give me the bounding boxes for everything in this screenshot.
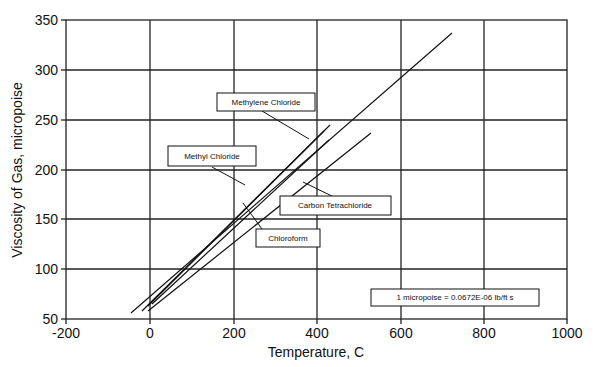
svg-text:200: 200 [35, 162, 59, 178]
svg-text:350: 350 [35, 12, 59, 28]
svg-text:600: 600 [389, 325, 413, 341]
svg-text:300: 300 [35, 62, 59, 78]
grid [61, 20, 567, 324]
viscosity-chart: 350 300 250 200 150 100 50 -200 0 200 40… [0, 0, 593, 367]
svg-text:-200: -200 [52, 325, 80, 341]
svg-text:800: 800 [472, 325, 496, 341]
svg-text:200: 200 [222, 325, 246, 341]
svg-text:1 micropoise = 0.0672E-06 lb/f: 1 micropoise = 0.0672E-06 lb/ft s [396, 293, 513, 302]
y-tick-labels: 350 300 250 200 150 100 50 [35, 12, 59, 327]
conversion-note: 1 micropoise = 0.0672E-06 lb/ft s [371, 289, 539, 306]
svg-text:100: 100 [35, 261, 59, 277]
svg-text:1000: 1000 [551, 325, 582, 341]
svg-text:150: 150 [35, 211, 59, 227]
svg-text:Carbon Tetrachloride: Carbon Tetrachloride [298, 201, 373, 210]
y-axis-label: Viscosity of Gas, micropoise [9, 82, 25, 258]
svg-text:Chloroform: Chloroform [268, 234, 308, 243]
callout-methyl-chloride: Methyl Chloride [168, 146, 256, 166]
series-methyl-chloride [131, 33, 452, 313]
svg-text:Methylene Chloride: Methylene Chloride [232, 98, 301, 107]
svg-text:Methyl Chloride: Methyl Chloride [184, 152, 240, 161]
x-tick-labels: -200 0 200 400 600 800 1000 [52, 325, 583, 341]
svg-text:400: 400 [305, 325, 329, 341]
svg-text:250: 250 [35, 112, 59, 128]
x-axis-label: Temperature, C [268, 344, 364, 360]
series-lines [131, 33, 452, 313]
callout-chloroform: Chloroform [256, 229, 320, 247]
svg-text:0: 0 [146, 325, 154, 341]
callout-methylene-chloride: Methylene Chloride [217, 93, 315, 111]
callout-carbon-tetrachloride: Carbon Tetrachloride [280, 196, 391, 215]
